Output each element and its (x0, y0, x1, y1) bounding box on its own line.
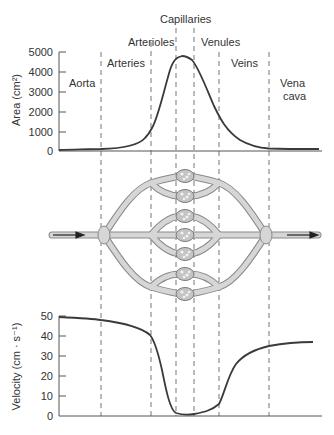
label-veins: Veins (231, 57, 258, 69)
velocity-axis-label: Velocity (cm · s⁻¹) (10, 317, 23, 417)
label-venules: Venules (201, 36, 240, 48)
velocity-curve (59, 317, 313, 415)
velocity-axes (59, 316, 322, 416)
area-curve (59, 56, 319, 150)
label-capillaries: Capillaries (160, 13, 211, 25)
area-axis-label: Area (cm²) (10, 70, 22, 130)
label-vena: Vena (280, 77, 305, 89)
label-arteries: Arteries (107, 57, 145, 69)
label-cava: cava (283, 90, 306, 102)
area-tick-0: 0 (13, 145, 53, 157)
vessel-diagram (52, 170, 318, 301)
label-aorta: Aorta (69, 77, 95, 89)
area-tick-5000: 5000 (13, 46, 53, 58)
label-arterioles: Arterioles (128, 36, 174, 48)
capillary-beds (176, 170, 194, 301)
